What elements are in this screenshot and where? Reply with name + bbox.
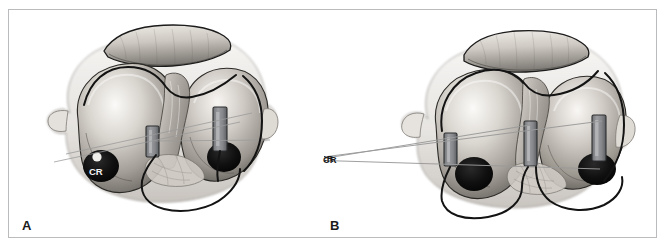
- panel-b: CR CR B: [324, 9, 657, 238]
- implant-pad-lateral: [213, 107, 227, 151]
- cr-label-text: CR: [89, 166, 103, 177]
- panel-b-illustration: CR: [324, 9, 666, 238]
- implant-pad-central: [524, 121, 537, 166]
- cr-label-b: CR: [323, 154, 337, 165]
- figure-root: CR A: [0, 0, 666, 248]
- patella-quadriceps: [464, 31, 589, 73]
- posterior-flange: [616, 115, 635, 147]
- posterior-flange: [261, 109, 278, 139]
- panel-a: CR A: [8, 9, 341, 238]
- lesion-left: [455, 157, 493, 191]
- panel-a-illustration: CR: [8, 9, 341, 238]
- panel-a-letter: A: [22, 219, 32, 232]
- panel-b-letter: B: [330, 219, 340, 232]
